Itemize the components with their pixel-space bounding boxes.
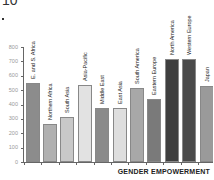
- bar-label: North America: [169, 20, 175, 55]
- x-tick-mark: [128, 162, 129, 165]
- x-axis: [23, 162, 213, 163]
- x-tick-mark: [76, 162, 77, 165]
- y-tick-mark: [21, 148, 24, 149]
- bar-label: Middle East: [99, 75, 105, 104]
- y-tick-mark: [21, 133, 24, 134]
- y-tick-label: 700: [0, 58, 18, 64]
- y-tick-label: 600: [0, 72, 18, 78]
- x-tick-mark: [41, 162, 42, 165]
- bar: [147, 99, 161, 162]
- y-tick-label: 300: [0, 115, 18, 121]
- y-tick-mark: [21, 47, 24, 48]
- x-tick-mark: [24, 162, 25, 165]
- bar-label: South Asia: [64, 86, 70, 112]
- bar-label: Japan: [204, 67, 210, 82]
- bar-label: Asia-Pacific: [82, 52, 88, 81]
- x-tick-mark: [163, 162, 164, 165]
- title-fragment: 10: [2, 0, 18, 8]
- x-tick-mark: [111, 162, 112, 165]
- bar: [130, 88, 144, 162]
- x-tick-mark: [146, 162, 147, 165]
- y-tick-label: 100: [0, 144, 18, 150]
- y-tick-label: 400: [0, 101, 18, 107]
- y-tick-mark: [21, 119, 24, 120]
- y-tick-mark: [21, 61, 24, 62]
- bar: [78, 85, 92, 162]
- y-tick-mark: [21, 76, 24, 77]
- bar: [113, 108, 127, 162]
- bar: [26, 83, 40, 162]
- decorative-dot: [2, 18, 4, 20]
- bar: [60, 117, 74, 162]
- y-tick-mark: [21, 105, 24, 106]
- x-axis-label: GENDER EMPOWERMENT: [118, 168, 210, 175]
- bar: [95, 108, 109, 162]
- x-tick-mark: [94, 162, 95, 165]
- y-tick-label: 200: [0, 130, 18, 136]
- x-tick-mark: [59, 162, 60, 165]
- bar-label: Northern Africa: [47, 83, 53, 120]
- bar-label: Eastern Europe: [151, 57, 157, 95]
- bar-label: E. and S. Africa: [30, 41, 36, 79]
- y-tick-label: 500: [0, 87, 18, 93]
- bar: [165, 59, 179, 162]
- x-tick-mark: [198, 162, 199, 165]
- bar-label: East Asia: [117, 81, 123, 104]
- bar: [200, 86, 214, 162]
- bar-label: South America: [134, 48, 140, 84]
- x-tick-mark: [181, 162, 182, 165]
- bar-label: Western Europe: [186, 15, 192, 55]
- y-tick-label: 0: [0, 159, 18, 165]
- y-tick-mark: [21, 90, 24, 91]
- bar: [43, 124, 57, 162]
- y-tick-label: 800: [0, 44, 18, 50]
- bar: [182, 59, 196, 162]
